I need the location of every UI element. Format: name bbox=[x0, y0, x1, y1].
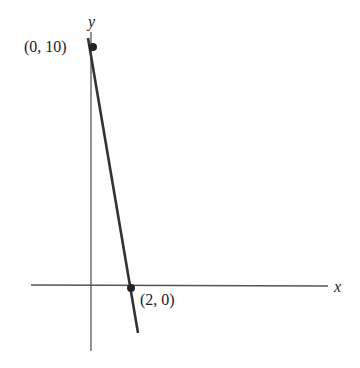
graph: y x (0, 10) (2, 0) bbox=[0, 0, 360, 368]
y-axis-label: y bbox=[86, 13, 96, 31]
point-2-0 bbox=[127, 284, 135, 292]
point-0-10 bbox=[89, 43, 97, 51]
point-label-0-10: (0, 10) bbox=[24, 38, 67, 56]
point-label-2-0: (2, 0) bbox=[140, 291, 175, 309]
x-axis-label: x bbox=[333, 278, 341, 295]
x-axis bbox=[31, 285, 328, 286]
